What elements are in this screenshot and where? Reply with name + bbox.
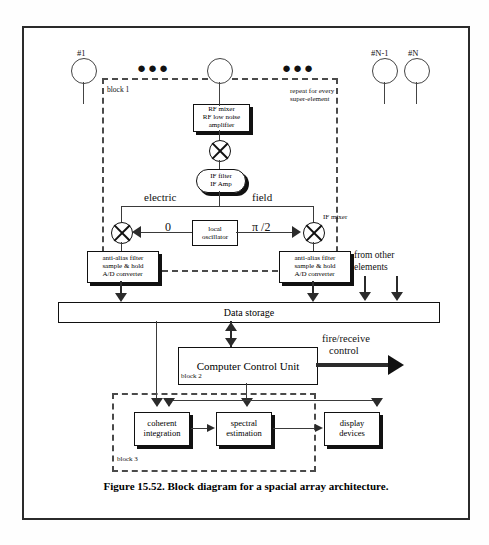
antenna-mid-icon	[207, 58, 233, 84]
phase-quarter-label: π /2	[252, 220, 270, 235]
left-if-mixer-circle-icon	[111, 222, 133, 244]
arrowhead-feedback-display	[371, 398, 383, 407]
figure-page: block 1 repeat for every super-element #…	[0, 0, 489, 545]
coherent-integration-box: coherent integration	[134, 412, 190, 446]
arrowhead-feedback-coherent	[163, 398, 175, 407]
fire-receive-line2: control	[329, 345, 359, 356]
line-iffilter-to-bus	[219, 191, 220, 206]
antenna-n-stem	[416, 82, 417, 104]
block3-feedback-bus	[168, 400, 376, 401]
arrowhead-fire-receive	[388, 355, 404, 375]
adc-left-box: anti-alias filter sample & hold A/D conv…	[87, 251, 159, 283]
arrowhead-other-elements-b	[391, 292, 403, 301]
arrowhead-adc-left-storage	[115, 293, 127, 302]
adc-left-line3: A/D converter	[102, 271, 143, 279]
arrowhead-left-mixer	[132, 226, 141, 238]
repeat-note-line1: repeat for every	[290, 87, 334, 95]
antenna-1-icon	[71, 58, 97, 84]
from-other-elements-line1: from other	[354, 250, 394, 260]
antenna-n-1-icon	[372, 58, 398, 84]
line-fire-receive	[316, 363, 390, 367]
ellipsis-left: ●●●	[137, 60, 170, 77]
phase-zero-label: 0	[165, 220, 171, 235]
block1-label: block 1	[107, 85, 129, 94]
line-lo-to-left-mixer	[134, 232, 192, 233]
if-mixer-label: IF mixer	[323, 213, 347, 221]
antenna-n-label: #N	[408, 48, 418, 58]
display-devices-line2: devices	[339, 429, 365, 439]
computer-control-unit-label: Computer Control Unit	[197, 360, 300, 373]
arrowhead-coherent-spectral	[207, 424, 215, 432]
display-devices-box: display devices	[324, 412, 380, 446]
rf-mixer-box: RF mixer RF low noise amplifier	[193, 104, 250, 132]
arrowhead-ccu-down	[225, 338, 237, 347]
line-spectral-to-display	[273, 428, 317, 429]
block3-label: block 3	[117, 455, 138, 463]
local-oscillator-line1: local	[202, 225, 228, 233]
rf-mixer-circle-icon	[209, 140, 231, 162]
line-bus-to-right-mixer	[313, 206, 314, 222]
antenna-n-icon	[404, 58, 430, 84]
ellipsis-right: ●●●	[282, 60, 315, 77]
arrowhead-other-elements-a	[359, 292, 371, 301]
if-filter-line2: IF Amp	[210, 181, 232, 189]
line-bus-to-left-mixer	[121, 206, 122, 222]
split-bus-horizontal	[121, 206, 313, 207]
arrowhead-spectral-display	[315, 424, 323, 432]
rf-mixer-line3: amplifier	[203, 122, 240, 130]
arrowhead-storage-up	[225, 322, 237, 331]
right-if-mixer-circle-icon	[303, 222, 325, 244]
figure-frame: block 1 repeat for every super-element #…	[22, 26, 470, 520]
local-oscillator-line2: oscillator	[202, 233, 228, 241]
arrowhead-adc-right-storage	[307, 293, 319, 302]
antenna-n-1-label: #N-1	[371, 48, 388, 58]
data-storage-box: Data storage	[58, 302, 440, 323]
adc-right-box: anti-alias filter sample & hold A/D conv…	[279, 251, 351, 283]
if-filter-box: IF filter IF Amp	[196, 169, 246, 193]
figure-caption: Figure 15.52. Block diagram for a spacia…	[24, 480, 468, 492]
fire-receive-line1: fire/receive	[322, 333, 370, 344]
electric-label: electric	[144, 191, 176, 203]
repeat-note-line2: super-element	[290, 95, 330, 103]
antenna-1-label: #1	[77, 48, 86, 58]
from-other-elements-line2: elements	[354, 262, 388, 272]
arrowhead-right-mixer	[292, 226, 301, 238]
line-rfmixer-to-mixer	[219, 130, 220, 140]
block2-label: block 2	[181, 372, 202, 380]
antenna-n-1-stem	[384, 82, 385, 104]
spectral-estimation-line2: estimation	[226, 429, 261, 439]
field-label: field	[252, 191, 272, 203]
antenna-1-stem	[83, 82, 84, 104]
line-antenna-to-rfmixer	[219, 100, 220, 106]
local-oscillator-box: local oscillator	[192, 220, 238, 246]
data-storage-label: Data storage	[224, 307, 274, 319]
spectral-estimation-box: spectral estimation	[216, 412, 272, 446]
adc-right-line3: A/D converter	[294, 271, 335, 279]
coherent-integration-line2: integration	[144, 429, 181, 439]
